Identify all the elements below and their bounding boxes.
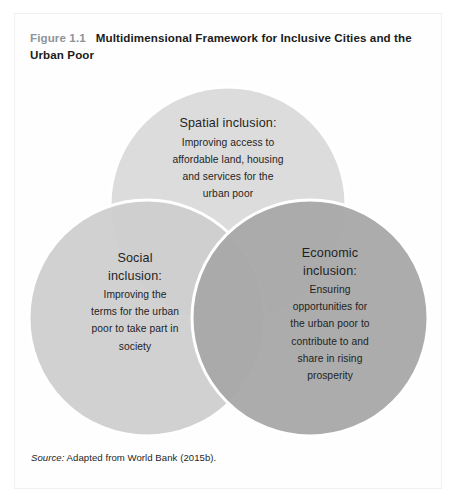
venn-body-line: contribute to and: [246, 333, 414, 350]
venn-heading-economic: Economic inclusion:: [246, 245, 414, 280]
venn-body-line: prosperity: [246, 367, 414, 384]
venn-label-spatial: Spatial inclusion: Improving access to a…: [119, 115, 337, 202]
venn-label-economic: Economic inclusion: Ensuring opportuniti…: [246, 245, 414, 384]
venn-diagram: Spatial inclusion: Improving access to a…: [14, 75, 442, 440]
venn-body-line: urban poor: [119, 185, 337, 202]
venn-body-line: Improving access to: [119, 134, 337, 151]
caption-spacer: [86, 31, 96, 44]
venn-heading-line: Social: [44, 250, 226, 268]
venn-body-line: Ensuring: [246, 281, 414, 298]
venn-body-spatial: Improving access to affordable land, hou…: [119, 134, 337, 203]
venn-body-line: the urban poor to: [246, 315, 414, 332]
venn-heading-spatial: Spatial inclusion:: [119, 115, 337, 133]
venn-body-line: terms for the urban: [44, 303, 226, 320]
venn-heading-line: Economic: [246, 245, 414, 263]
venn-heading-line: inclusion:: [246, 263, 414, 281]
source-label: Source:: [31, 452, 64, 463]
venn-body-line: Improving the: [44, 286, 226, 303]
venn-label-social: Social inclusion: Improving the terms fo…: [44, 250, 226, 355]
venn-body-line: poor to take part in: [44, 320, 226, 337]
venn-body-line: opportunities for: [246, 298, 414, 315]
figure-screenshot: Figure 1.1 Multidimensional Framework fo…: [0, 0, 456, 502]
venn-heading-line: inclusion:: [44, 268, 226, 286]
figure-caption: Figure 1.1 Multidimensional Framework fo…: [30, 30, 420, 63]
venn-body-line: affordable land, housing: [119, 151, 337, 168]
venn-body-line: and services for the: [119, 168, 337, 185]
source-note: Source: Adapted from World Bank (2015b).: [31, 452, 216, 463]
venn-body-social: Improving the terms for the urban poor t…: [44, 286, 226, 355]
venn-heading-social: Social inclusion:: [44, 250, 226, 285]
venn-body-line: society: [44, 338, 226, 355]
venn-body-economic: Ensuring opportunities for the urban poo…: [246, 281, 414, 384]
source-text: Adapted from World Bank (2015b).: [67, 452, 217, 463]
venn-body-line: share in rising: [246, 350, 414, 367]
figure-number-label: Figure 1.1: [30, 31, 86, 44]
